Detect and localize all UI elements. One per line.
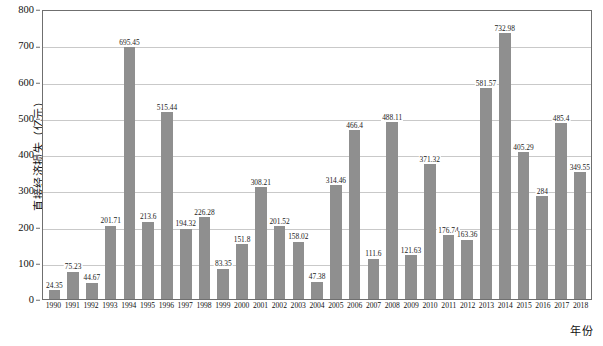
bar[interactable]: 226.28: [199, 217, 211, 299]
bar-value-label: 121.63: [400, 247, 422, 254]
bar-slot: 194.32: [176, 11, 195, 299]
bar-slot: 83.35: [214, 11, 233, 299]
bar-value-label: 732.98: [494, 25, 516, 32]
bar[interactable]: 515.44: [161, 112, 173, 299]
x-axis-tick: 2001: [251, 302, 270, 310]
x-axis-tick: 1999: [213, 302, 232, 310]
bar-value-label: 488.11: [381, 114, 403, 121]
x-axis-tick: 1991: [63, 302, 82, 310]
bar-slot: 308.21: [251, 11, 270, 299]
bar[interactable]: 581.57: [480, 88, 492, 299]
y-axis-tick: 700: [18, 41, 34, 52]
bar-slot: 371.32: [420, 11, 439, 299]
x-axis-tick: 2005: [326, 302, 345, 310]
bar-value-label: 515.44: [156, 104, 178, 111]
x-axis-tick: 2007: [364, 302, 383, 310]
x-axis-tick: 1995: [138, 302, 157, 310]
bar-value-label: 349.55: [569, 164, 591, 171]
y-axis-tick-labels: 0100200300400500600700800: [0, 10, 40, 300]
y-axis-tick: 300: [18, 186, 34, 197]
bar[interactable]: 314.46: [330, 185, 342, 299]
y-axis-tick: 500: [18, 114, 34, 125]
y-axis-tick: 200: [18, 222, 34, 233]
bar[interactable]: 121.63: [405, 255, 417, 299]
x-axis-tick: 2017: [552, 302, 571, 310]
x-axis-tick: 2010: [421, 302, 440, 310]
bar[interactable]: 213.6: [142, 222, 154, 299]
y-axis-tick: 400: [18, 150, 34, 161]
bar[interactable]: 163.36: [461, 240, 473, 299]
bar-slot: 201.52: [270, 11, 289, 299]
bar-slot: 515.44: [158, 11, 177, 299]
bar[interactable]: 176.74: [443, 235, 455, 299]
x-axis-tick-labels: 1990199119921993199419951996199719981999…: [42, 302, 592, 310]
bar-slot: 213.6: [139, 11, 158, 299]
bar-slot: 75.23: [64, 11, 83, 299]
bar[interactable]: 466.4: [349, 130, 361, 299]
bar[interactable]: 47.38: [311, 282, 323, 299]
bar-slot: 158.02: [289, 11, 308, 299]
bar[interactable]: 349.55: [574, 172, 586, 299]
bar-value-label: 201.52: [268, 218, 290, 225]
bar[interactable]: 75.23: [67, 272, 79, 299]
bar[interactable]: 405.29: [518, 152, 530, 299]
x-axis-tick: 2004: [308, 302, 327, 310]
x-axis-tick: 1992: [82, 302, 101, 310]
bar-slot: 176.74: [439, 11, 458, 299]
bar-slot: 466.4: [345, 11, 364, 299]
plot-area: 24.3575.2344.67201.71695.45213.6515.4419…: [42, 10, 592, 300]
bar-value-label: 201.71: [100, 217, 122, 224]
bar[interactable]: 111.6: [368, 259, 380, 299]
bar[interactable]: 732.98: [499, 33, 511, 299]
bar-slot: 485.4: [552, 11, 571, 299]
bar[interactable]: 83.35: [217, 269, 229, 299]
x-axis-tick: 2003: [289, 302, 308, 310]
x-axis-tick: 2016: [534, 302, 553, 310]
x-axis-tick: 1993: [100, 302, 119, 310]
bar-slot: 44.67: [83, 11, 102, 299]
bar[interactable]: 485.4: [555, 123, 567, 299]
bar[interactable]: 201.71: [105, 226, 117, 299]
bar[interactable]: 44.67: [86, 283, 98, 299]
x-axis-tick: 1997: [176, 302, 195, 310]
bar-slot: 405.29: [514, 11, 533, 299]
bar-value-label: 163.36: [456, 231, 478, 238]
y-axis-tick: 0: [29, 295, 34, 306]
bar-value-label: 47.38: [308, 273, 327, 280]
bar-value-label: 158.02: [287, 233, 309, 240]
bar-value-label: 466.4: [345, 122, 364, 129]
bar[interactable]: 24.35: [49, 290, 61, 299]
y-axis-tick: 800: [18, 5, 34, 16]
bar-value-label: 213.6: [139, 213, 158, 220]
bar[interactable]: 201.52: [274, 226, 286, 299]
bar[interactable]: 158.02: [293, 242, 305, 299]
bar[interactable]: 695.45: [124, 47, 136, 299]
x-axis-tick: 2014: [496, 302, 515, 310]
bar[interactable]: 284: [536, 196, 548, 299]
bar-slot: 488.11: [383, 11, 402, 299]
bar-value-label: 485.4: [552, 115, 571, 122]
x-axis-tick: 2013: [477, 302, 496, 310]
bar-slot: 24.35: [45, 11, 64, 299]
x-axis-tick: 2018: [571, 302, 590, 310]
x-axis-tick: 2002: [270, 302, 289, 310]
y-axis-tick: 600: [18, 77, 34, 88]
bar-slot: 581.57: [477, 11, 496, 299]
bar[interactable]: 194.32: [180, 229, 192, 299]
x-axis-tick: 2000: [232, 302, 251, 310]
bar[interactable]: 308.21: [255, 187, 267, 299]
bar-slot: 151.8: [233, 11, 252, 299]
bar-slot: 121.63: [402, 11, 421, 299]
bar[interactable]: 151.8: [236, 244, 248, 299]
bar[interactable]: 371.32: [424, 164, 436, 299]
bar-value-label: 308.21: [250, 179, 272, 186]
bar-value-label: 581.57: [475, 80, 497, 87]
bar-value-label: 695.45: [118, 39, 140, 46]
bar-value-label: 405.29: [512, 144, 534, 151]
x-axis-tick: 1994: [119, 302, 138, 310]
bar[interactable]: 488.11: [386, 122, 398, 299]
bar-value-label: 111.6: [364, 250, 382, 257]
x-axis-tick: 2012: [458, 302, 477, 310]
y-axis-tick: 100: [18, 259, 34, 270]
bar-slot: 349.55: [570, 11, 589, 299]
